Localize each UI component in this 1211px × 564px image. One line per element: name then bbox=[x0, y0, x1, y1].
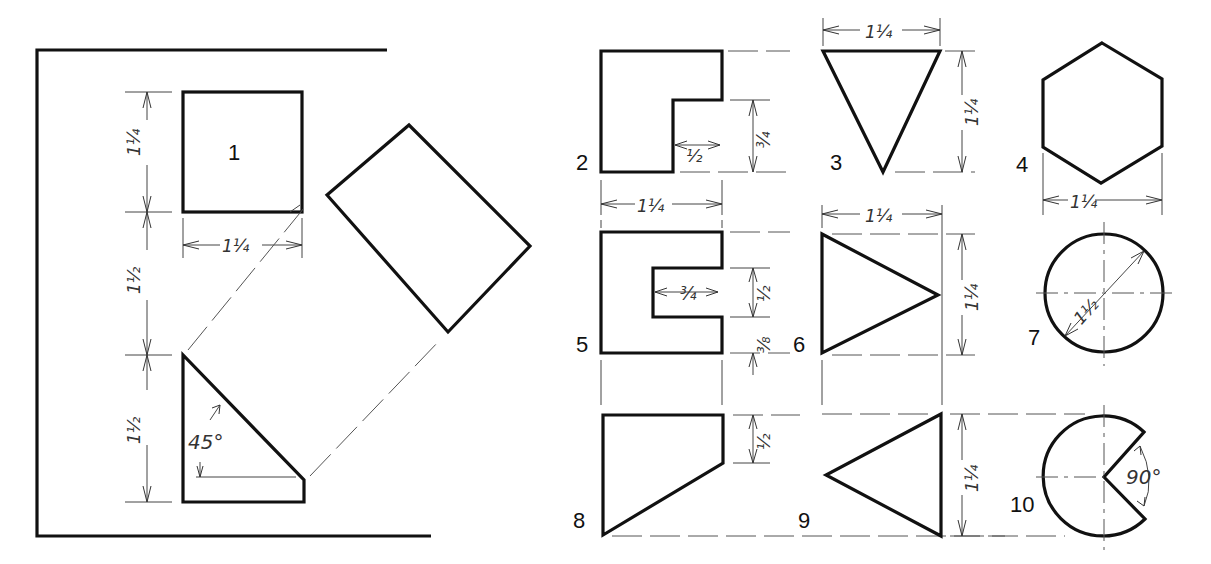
drawing-sheet: 1 1¼ 1½ 1½ 1¼ bbox=[0, 0, 1211, 564]
fig1-dim-gap: 1½ bbox=[124, 266, 144, 294]
fig1-label: 1 bbox=[228, 140, 240, 165]
fig6-label: 6 bbox=[793, 332, 805, 357]
figure-2: 2 ¾ ½ 1¼ bbox=[576, 51, 790, 216]
fig1-dim-tri-height: 1½ bbox=[124, 416, 144, 444]
svg-text:1¼: 1¼ bbox=[962, 464, 982, 492]
fig8-label: 8 bbox=[573, 508, 585, 533]
fig4-hexagon bbox=[1043, 43, 1162, 183]
fig1-auxiliary-view bbox=[327, 125, 530, 332]
fig8-trapezoid bbox=[603, 415, 723, 535]
svg-text:¾: ¾ bbox=[754, 131, 774, 148]
fig3-label: 3 bbox=[830, 150, 842, 175]
fig6-triangle bbox=[822, 234, 938, 353]
fig2-dim-width: 1¼ bbox=[637, 196, 665, 216]
svg-text:½: ½ bbox=[754, 285, 774, 302]
svg-text:1¼: 1¼ bbox=[962, 98, 982, 126]
svg-text:1¼: 1¼ bbox=[1070, 192, 1098, 212]
figure-5: 5 ½ ⅜ ¾ bbox=[576, 220, 790, 405]
svg-text:½: ½ bbox=[686, 146, 703, 166]
svg-text:½: ½ bbox=[754, 433, 774, 450]
svg-text:1¼: 1¼ bbox=[865, 22, 893, 42]
fig1-square bbox=[183, 92, 302, 212]
figure-10: 10 90° bbox=[1010, 405, 1161, 550]
fig5-dim-slot: ¾ bbox=[680, 284, 697, 304]
fig1-triangle bbox=[183, 355, 304, 502]
figure-3: 3 1¼ 1¼ bbox=[823, 18, 982, 175]
fig2-l-shape bbox=[601, 51, 722, 172]
svg-text:1½: 1½ bbox=[1069, 294, 1102, 328]
fig9-label: 9 bbox=[798, 508, 810, 533]
figure-4: 4 1¼ bbox=[1016, 43, 1162, 215]
fig1-dim-height: 1¼ bbox=[124, 128, 144, 156]
fig7-label: 7 bbox=[1028, 325, 1040, 350]
svg-text:⅜: ⅜ bbox=[754, 336, 774, 353]
svg-text:1¼: 1¼ bbox=[962, 283, 982, 311]
figure-7: 7 1½ bbox=[1028, 222, 1176, 366]
fig4-label: 4 bbox=[1016, 152, 1028, 177]
fig1-dim-width: 1¼ bbox=[222, 236, 250, 256]
svg-text:1¼: 1¼ bbox=[865, 206, 893, 226]
fig10-angle: 90° bbox=[1126, 465, 1161, 489]
fig9-triangle bbox=[826, 414, 941, 536]
figure-1-panel: 1 1¼ 1½ 1½ 1¼ bbox=[37, 50, 530, 536]
fig5-label: 5 bbox=[576, 332, 588, 357]
fig1-angle: 45° bbox=[188, 430, 223, 454]
figure-6: 6 1¼ 1¼ bbox=[793, 205, 982, 405]
panel-border bbox=[37, 50, 431, 536]
fig2-label: 2 bbox=[576, 150, 588, 175]
fig10-label: 10 bbox=[1010, 492, 1034, 517]
